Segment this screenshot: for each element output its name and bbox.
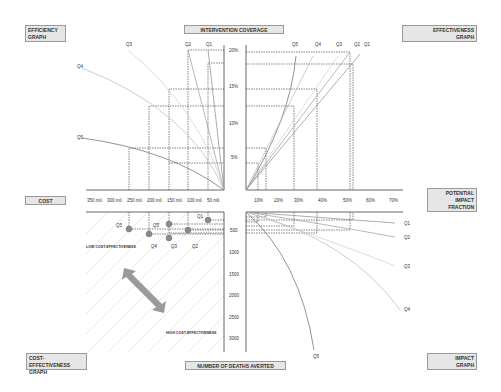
impact-curve-labels: Q1 Q2 Q3 Q4 Q5 [313,221,411,359]
svg-text:250 mil.: 250 mil. [127,198,143,203]
svg-text:Q5: Q5 [313,354,320,359]
svg-text:1000: 1000 [229,250,240,255]
svg-text:Q5: Q5 [77,135,84,140]
svg-text:70%: 70% [389,198,398,203]
svg-text:30%: 30% [294,198,303,203]
coverage-ticks: 20% 15% 10% 5% [229,48,238,160]
svg-text:Q2: Q2 [185,42,192,47]
effectiveness-guides [246,52,353,190]
svg-text:10%: 10% [229,121,238,126]
svg-text:Q1: Q1 [197,214,204,219]
svg-text:2000: 2000 [229,293,240,298]
svg-text:60%: 60% [366,198,375,203]
svg-text:300 mil.: 300 mil. [107,198,123,203]
svg-text:Q1: Q1 [206,42,213,47]
svg-text:500: 500 [230,228,238,233]
svg-text:50%: 50% [343,198,352,203]
svg-text:1500: 1500 [229,272,240,277]
svg-text:Q2: Q2 [192,244,199,249]
svg-text:Q3: Q3 [171,244,178,249]
svg-text:Q4: Q4 [404,307,411,312]
cost-ticks: 350 mil. 300 mil. 250 mil. 200 mil. 150 … [87,198,220,203]
svg-text:Q4: Q4 [315,42,322,47]
svg-text:Q4: Q4 [77,64,84,69]
deaths-ticks: 500 1000 1500 2000 2500 3000 [229,228,240,341]
svg-text:Q1: Q1 [404,221,411,226]
svg-text:20%: 20% [274,198,283,203]
svg-text:10%: 10% [254,198,263,203]
svg-text:Q4: Q4 [151,244,158,249]
svg-text:5%: 5% [231,155,238,160]
svg-text:Q5: Q5 [116,223,123,228]
svg-text:Q2: Q2 [404,235,411,240]
svg-text:Q5: Q5 [292,42,299,47]
efficiency-guides [129,50,224,190]
hatch-pattern [0,180,400,380]
svg-text:2500: 2500 [229,315,240,320]
svg-text:Q3: Q3 [126,42,133,47]
svg-text:200 mil.: 200 mil. [147,198,163,203]
svg-text:15%: 15% [229,84,238,89]
svg-text:40%: 40% [318,198,327,203]
low-cost-effectiveness-label: LOW COST-EFFECTIVENESS [86,245,137,249]
svg-text:3000: 3000 [229,336,240,341]
svg-text:Q3: Q3 [336,42,343,47]
svg-text:Q2: Q2 [354,42,361,47]
high-cost-effectiveness-label: HIGH COST-EFFECTIVENESS [166,331,217,335]
svg-text:Q5': Q5' [153,223,160,228]
svg-text:350 mil.: 350 mil. [87,198,103,203]
svg-text:Q1: Q1 [364,42,371,47]
effectiveness-curves [246,52,360,190]
efficiency-curves [82,50,224,190]
effectiveness-curve-labels: Q5 Q4 Q3 Q2 Q1 [292,42,371,47]
double-arrow-icon [122,268,166,313]
pif-ticks: 10% 20% 30% 40% 50% 60% 70% [254,198,398,203]
svg-text:150 mil.: 150 mil. [167,198,183,203]
cost-effectiveness-guides [129,212,224,234]
svg-text:Q3: Q3 [404,264,411,269]
efficiency-curve-labels: Q1 Q2 Q3 Q4 Q5 [77,42,213,140]
four-quadrant-diagram: Q1 Q2 Q3 Q4 Q5 20% 15% 10% 5% Q5 Q4 Q3 Q… [0,0,501,392]
svg-text:50 mil.: 50 mil. [207,198,220,203]
svg-text:100 mil.: 100 mil. [187,198,203,203]
impact-guides [246,212,353,233]
svg-text:20%: 20% [229,48,238,53]
